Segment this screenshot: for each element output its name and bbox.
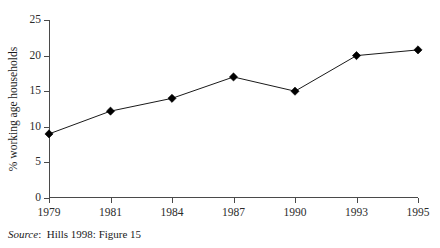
figure-container: % working age households 0510152025 1979…	[0, 0, 440, 248]
x-tick-1995	[418, 198, 419, 203]
x-tick-1993	[357, 198, 358, 203]
data-point-1993	[352, 52, 360, 60]
data-point-1987	[229, 73, 237, 81]
data-point-1995	[414, 46, 422, 54]
series-line	[49, 50, 418, 134]
x-tick-1987	[234, 198, 235, 203]
source-caption: Source: Hills 1998: Figure 15	[8, 228, 141, 241]
x-tick-label-1990: 1990	[284, 207, 307, 219]
x-tick-label-1993: 1993	[345, 207, 368, 219]
x-tick-1990	[295, 198, 296, 203]
data-point-1979	[45, 130, 53, 138]
x-tick-label-1979: 1979	[38, 207, 61, 219]
x-tick-label-1995: 1995	[407, 207, 430, 219]
x-tick-1984	[172, 198, 173, 203]
plot-area: 0510152025 1979198119841987199019931995	[49, 20, 418, 198]
x-tick-1981	[111, 198, 112, 203]
y-tick-label-5: 5	[35, 157, 41, 169]
source-separator: :	[38, 228, 41, 240]
y-axis-title: % working age households	[6, 20, 20, 198]
x-tick-label-1987: 1987	[222, 207, 245, 219]
source-text: Hills 1998: Figure 15	[47, 228, 141, 240]
data-point-1981	[106, 107, 114, 115]
y-tick-label-20: 20	[30, 50, 42, 62]
x-tick-1979	[49, 198, 50, 203]
y-tick-label-15: 15	[30, 85, 42, 97]
x-tick-label-1981: 1981	[99, 207, 122, 219]
data-series	[49, 20, 418, 198]
y-tick-label-25: 25	[30, 14, 42, 26]
data-point-1990	[291, 87, 299, 95]
source-label: Source	[8, 228, 38, 240]
y-tick-label-10: 10	[30, 121, 42, 133]
data-point-1984	[168, 94, 176, 102]
x-tick-label-1984: 1984	[161, 207, 184, 219]
y-tick-label-0: 0	[35, 192, 41, 204]
